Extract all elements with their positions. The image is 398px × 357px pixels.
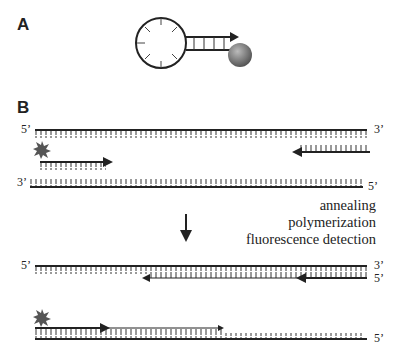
product-strand-1 (35, 266, 367, 283)
template-top-strand (35, 130, 367, 138)
molecular-beacon (136, 18, 252, 68)
diagram-canvas (0, 0, 398, 357)
bottom-5prime-label: 5’ (368, 179, 378, 194)
fluorophore-star-icon (33, 141, 51, 159)
top-5prime-label: 5’ (21, 122, 31, 137)
forward-primer-probe (33, 141, 113, 170)
product-strand-2 (33, 309, 367, 339)
down-arrow-icon (180, 214, 192, 242)
step-fluorescence-detection: fluorescence detection (246, 231, 376, 248)
step-annealing: annealing (320, 197, 376, 214)
product1-right-5prime-label: 5’ (374, 271, 384, 286)
template-bottom-strand (30, 179, 363, 187)
quencher-icon (228, 43, 252, 67)
product1-5prime-label: 5’ (21, 258, 31, 273)
step-polymerization: polymerization (288, 214, 376, 231)
product2-5prime-label: 5’ (374, 331, 384, 346)
top-3prime-label: 3’ (374, 122, 384, 137)
reverse-primer (292, 144, 370, 157)
bottom-3prime-label: 3’ (17, 175, 27, 190)
